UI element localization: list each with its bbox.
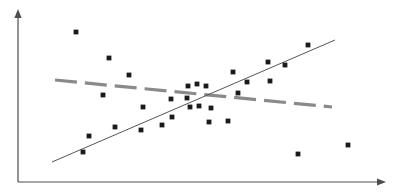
scatter-point <box>266 60 271 65</box>
scatter-point <box>139 128 144 133</box>
scatter-point <box>197 104 202 109</box>
scatter-point <box>207 120 212 125</box>
scatter-point <box>169 97 174 102</box>
solid-trend-line-stroke <box>52 40 335 162</box>
scatter-point <box>101 93 106 98</box>
y-axis-arrow-icon <box>14 9 21 18</box>
scatter-point <box>245 80 250 85</box>
x-axis-arrow-icon <box>377 178 386 185</box>
scatter-point <box>209 106 214 111</box>
scatter-point <box>186 84 191 89</box>
scatter-point <box>231 70 236 75</box>
axes-group <box>14 9 386 186</box>
scatter-point <box>127 73 132 78</box>
scatter-point <box>185 96 190 101</box>
scatter-point <box>81 150 86 155</box>
scatter-point <box>160 123 165 128</box>
scatter-point <box>141 105 146 110</box>
scatter-point <box>87 134 92 139</box>
scatter-point <box>268 79 273 84</box>
dashed-trend-line <box>55 80 332 107</box>
scatter-plot-figure <box>0 0 399 195</box>
scatter-point <box>226 119 231 124</box>
scatter-point <box>306 43 311 48</box>
dashed-trend-line-stroke <box>55 80 332 107</box>
scatter-point <box>204 84 209 89</box>
scatter-point <box>296 152 301 157</box>
scatter-point <box>195 82 200 87</box>
scatter-point <box>188 105 193 110</box>
plot-canvas <box>0 0 399 195</box>
scatter-point <box>283 63 288 68</box>
scatter-point <box>74 30 79 35</box>
scatter-point <box>107 56 112 61</box>
scatter-point <box>236 91 241 96</box>
scatter-point <box>346 143 351 148</box>
solid-trend-line <box>52 40 335 162</box>
scatter-point <box>113 125 118 130</box>
scatter-point <box>170 115 175 120</box>
